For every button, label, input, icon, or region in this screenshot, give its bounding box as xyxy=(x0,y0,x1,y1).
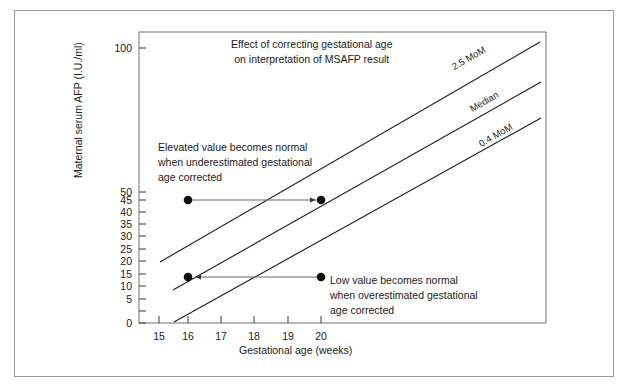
y-tick-label-10: 10 xyxy=(88,281,132,292)
y-axis-ticks xyxy=(139,48,146,323)
data-point-low-start xyxy=(317,273,326,282)
correction-arrows xyxy=(189,200,320,277)
x-tick-label-19: 19 xyxy=(282,331,294,342)
data-points xyxy=(184,196,326,282)
data-point-elevated-end xyxy=(317,196,326,205)
data-point-elevated-start xyxy=(184,196,193,205)
x-tick-label-18: 18 xyxy=(248,331,260,342)
y-axis-title: Maternal serum AFP (I.U./ml) xyxy=(73,42,84,178)
x-tick-label-15: 15 xyxy=(153,331,165,342)
annotation-elevated-value: Elevated value becomes normal when under… xyxy=(158,140,312,186)
y-tick-label-15: 15 xyxy=(88,269,132,280)
curve-median xyxy=(173,82,541,290)
y-tick-label-40: 40 xyxy=(88,207,132,218)
y-tick-label-20: 20 xyxy=(88,256,132,267)
x-tick-label-20: 20 xyxy=(315,331,327,342)
x-tick-label-16: 16 xyxy=(182,331,194,342)
chart-title: Effect of correcting gestational age on … xyxy=(231,37,393,67)
y-tick-label-30: 30 xyxy=(88,231,132,242)
y-tick-label-25: 25 xyxy=(88,244,132,255)
x-axis-title: Gestational age (weeks) xyxy=(239,345,352,356)
y-tick-label-45: 45 xyxy=(88,195,132,206)
data-point-low-end xyxy=(184,273,193,282)
x-tick-label-17: 17 xyxy=(215,331,227,342)
y-tick-label-0: 0 xyxy=(88,318,132,329)
y-tick-label-100: 100 xyxy=(88,43,132,54)
annotation-low-value: Low value becomes normal when overestima… xyxy=(330,273,478,319)
figure-container: 100 50 45 40 35 30 25 20 15 10 5 0 15 16… xyxy=(0,0,629,390)
y-tick-label-35: 35 xyxy=(88,219,132,230)
y-tick-label-5: 5 xyxy=(88,294,132,305)
